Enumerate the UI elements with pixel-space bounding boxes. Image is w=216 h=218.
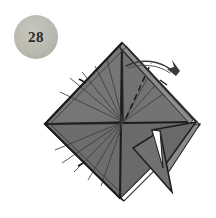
badge-number-label: 28 [28,29,44,45]
crease-top-center [122,43,123,122]
origami-illustration-svg: 28 [0,0,216,218]
origami-diagram-figure: 28 [0,0,216,218]
step-number-badge: 28 [14,15,58,59]
